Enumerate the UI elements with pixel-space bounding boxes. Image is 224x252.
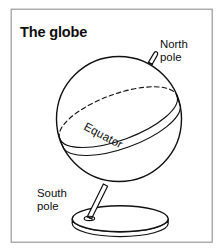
base-disc-top bbox=[72, 206, 168, 232]
south-pole-label-line1: South bbox=[37, 187, 67, 199]
south-pole-label-line2: pole bbox=[37, 200, 59, 212]
globe-base-disc bbox=[72, 206, 168, 237]
north-pole-label-line1: North bbox=[160, 38, 188, 50]
globe-illustration-canvas: The globe bbox=[0, 0, 224, 252]
figure-title: The globe bbox=[20, 24, 87, 40]
globe-figure: The globe bbox=[0, 0, 224, 252]
north-pole-label-line2: pole bbox=[160, 51, 182, 63]
